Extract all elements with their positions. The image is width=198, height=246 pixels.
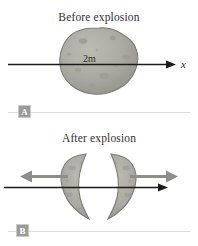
x-axis-arrow-b — [4, 184, 168, 192]
panel-badge-b: B — [16, 224, 29, 237]
panel-after-explosion: After explosion — [0, 123, 198, 246]
panel-before-explosion: Before explosion — [0, 0, 198, 123]
physics-figure-explosion: Before explosion — [0, 0, 198, 246]
panel-a-divider — [8, 112, 190, 113]
x-axis-label-a: x — [181, 58, 186, 70]
asteroid-whole-icon — [60, 28, 138, 94]
asteroid-fragment-left-icon — [61, 154, 89, 219]
panel-b-divider — [8, 231, 190, 232]
panel-b-illustration — [0, 123, 198, 246]
panel-badge-a: A — [18, 105, 31, 118]
mass-label-before: 2m — [83, 53, 96, 64]
asteroid-fragment-right-icon — [108, 154, 136, 219]
velocity-arrow-right — [130, 171, 178, 183]
